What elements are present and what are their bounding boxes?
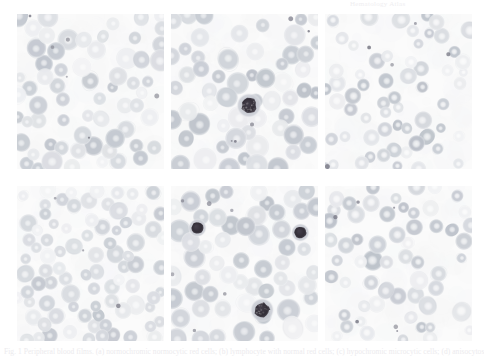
micrograph-canvas-c [325, 14, 472, 169]
figure-page: Hematology Atlas Fig. 1 Peripheral blood… [0, 0, 487, 358]
micrograph-panel-grid [17, 14, 472, 341]
micrograph-panel-d[interactable] [17, 186, 164, 341]
micrograph-canvas-b [171, 14, 318, 169]
micrograph-panel-f[interactable] [325, 186, 472, 341]
micrograph-panel-b[interactable] [171, 14, 318, 169]
page-header-text: Hematology Atlas [350, 0, 487, 9]
micrograph-panel-c[interactable] [325, 14, 472, 169]
figure-caption: Fig. 1 Peripheral blood films. (a) normo… [4, 345, 484, 358]
micrograph-canvas-d [17, 186, 164, 341]
micrograph-canvas-e [171, 186, 318, 341]
micrograph-canvas-a [17, 14, 164, 169]
micrograph-canvas-f [325, 186, 472, 341]
micrograph-panel-a[interactable] [17, 14, 164, 169]
micrograph-panel-e[interactable] [171, 186, 318, 341]
